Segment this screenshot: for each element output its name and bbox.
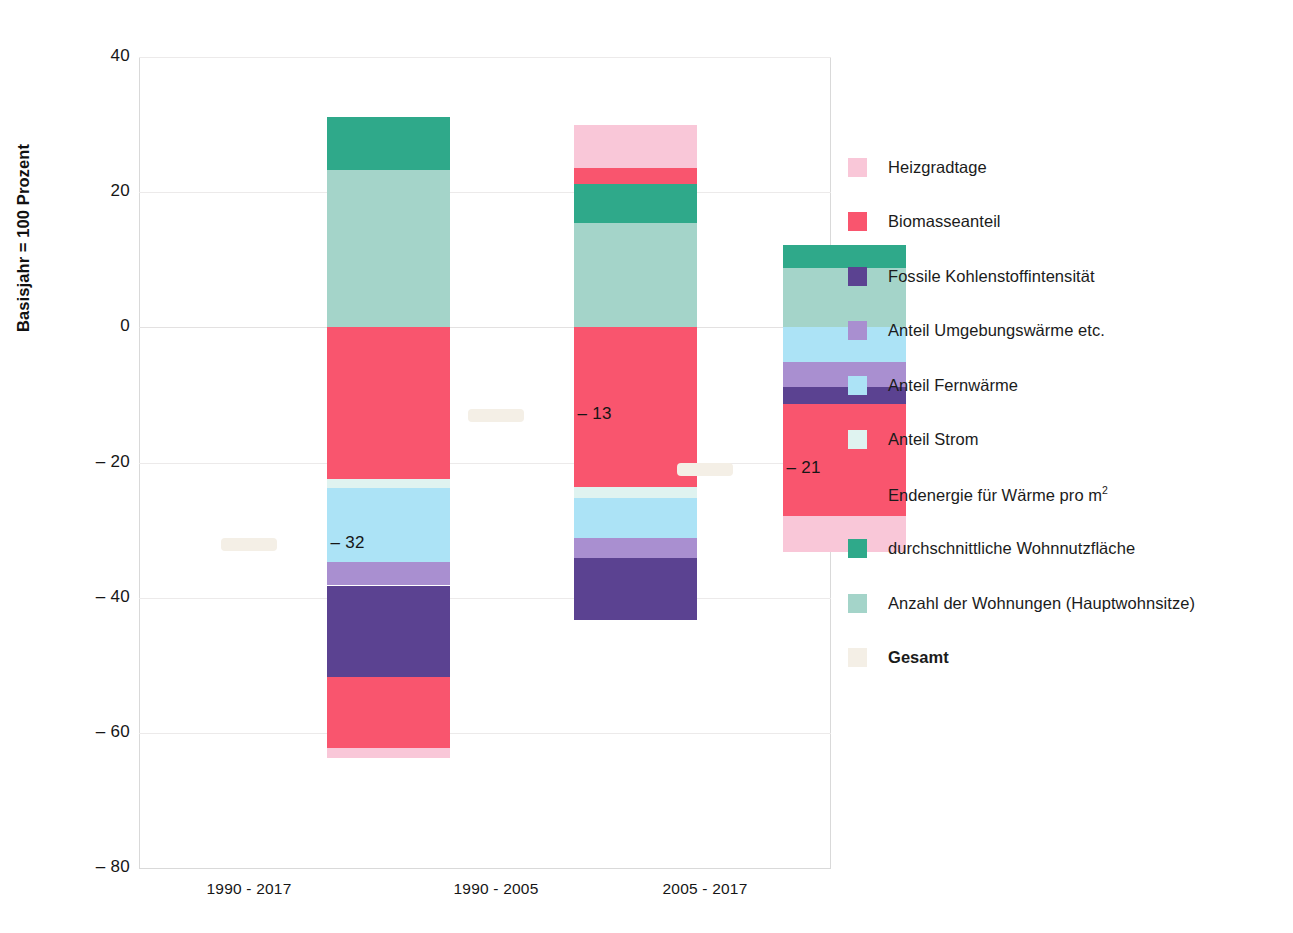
legend-item[interactable]: durchschnittliche Wohnnutzfläche <box>848 522 1278 577</box>
gridline--40 <box>139 598 831 599</box>
gridline-40 <box>139 57 831 58</box>
y-tick-label: – 20 <box>10 452 130 472</box>
gridline-20 <box>139 192 831 193</box>
y-tick-label: 20 <box>10 181 130 201</box>
bar-1990-2005[interactable] <box>574 57 697 868</box>
legend-swatch-icon <box>848 648 867 667</box>
legend-item[interactable]: Anzahl der Wohnungen (Hauptwohnsitze) <box>848 576 1278 631</box>
legend-item[interactable]: Fossile Kohlenstoffintensität <box>848 249 1278 304</box>
legend-item-label: Heizgradtage <box>888 158 987 177</box>
legend-swatch-icon <box>848 158 867 177</box>
gridline-0 <box>139 327 831 328</box>
bar-segment[interactable] <box>327 170 450 327</box>
total-marker <box>221 538 277 551</box>
y-tick-label: 0 <box>10 316 130 336</box>
bar-segment[interactable] <box>327 748 450 757</box>
total-label: – 32 <box>331 533 365 553</box>
bar-segment[interactable] <box>574 558 697 620</box>
bar-segment[interactable] <box>327 479 450 488</box>
legend-swatch-icon <box>848 267 867 286</box>
legend-item[interactable]: Heizgradtage <box>848 140 1278 195</box>
x-tick-label: 1990 - 2017 <box>139 880 359 898</box>
bar-segment[interactable] <box>574 487 697 498</box>
legend-item[interactable]: Anteil Strom <box>848 413 1278 468</box>
legend-swatch-icon <box>848 321 867 340</box>
y-tick-label: – 60 <box>10 722 130 742</box>
legend-item[interactable]: Biomasseanteil <box>848 195 1278 250</box>
legend-swatch-icon <box>848 485 867 504</box>
bar-segment[interactable] <box>327 562 450 586</box>
x-tick-label: 1990 - 2005 <box>386 880 606 898</box>
y-tick-label: – 40 <box>10 587 130 607</box>
legend-swatch-icon <box>848 594 867 613</box>
legend-item[interactable]: Endenergie für Wärme pro m2 <box>848 467 1278 522</box>
plot-area: – 32– 13– 21 <box>139 57 831 868</box>
bar-segment[interactable] <box>574 223 697 328</box>
legend-item[interactable]: Anteil Fernwärme <box>848 358 1278 413</box>
total-marker <box>468 409 524 422</box>
bar-segment[interactable] <box>327 117 450 170</box>
bar-segment[interactable] <box>574 125 697 168</box>
legend-item-label: durchschnittliche Wohnnutzfläche <box>888 539 1135 558</box>
bar-segment[interactable] <box>327 677 450 748</box>
gridline--80 <box>139 868 831 869</box>
gridline--60 <box>139 733 831 734</box>
bar-segment[interactable] <box>327 586 450 678</box>
legend-item-label: Biomasseanteil <box>888 212 1001 231</box>
total-label: – 21 <box>787 458 821 478</box>
bar-1990-2017[interactable] <box>327 57 450 868</box>
legend-item-label: Fossile Kohlenstoffintensität <box>888 267 1095 286</box>
y-tick-label: – 80 <box>10 857 130 877</box>
legend-item-label: Anzahl der Wohnungen (Hauptwohnsitze) <box>888 594 1195 613</box>
chart-legend: HeizgradtageBiomasseanteilFossile Kohlen… <box>848 140 1278 685</box>
chart-root: Basisjahr = 100 Prozent – 32– 13– 21 402… <box>0 0 1293 933</box>
y-tick-label: 40 <box>10 46 130 66</box>
legend-item-label: Anteil Fernwärme <box>888 376 1018 395</box>
legend-swatch-icon <box>848 430 867 449</box>
x-tick-label: 2005 - 2017 <box>595 880 815 898</box>
legend-item-label: Endenergie für Wärme pro m2 <box>888 484 1108 505</box>
legend-swatch-icon <box>848 539 867 558</box>
legend-item-label: Gesamt <box>888 648 949 667</box>
bar-segment[interactable] <box>574 184 697 223</box>
legend-swatch-icon <box>848 212 867 231</box>
bar-segment[interactable] <box>574 168 697 184</box>
total-label: – 13 <box>578 404 612 424</box>
bar-segment[interactable] <box>574 498 697 538</box>
legend-item-label: Anteil Strom <box>888 430 978 449</box>
total-marker <box>677 463 733 476</box>
legend-item[interactable]: Anteil Umgebungswärme etc. <box>848 304 1278 359</box>
legend-swatch-icon <box>848 376 867 395</box>
bar-segment[interactable] <box>574 538 697 558</box>
bar-segment[interactable] <box>327 327 450 478</box>
legend-item[interactable]: Gesamt <box>848 631 1278 686</box>
legend-item-label: Anteil Umgebungswärme etc. <box>888 321 1105 340</box>
